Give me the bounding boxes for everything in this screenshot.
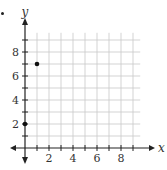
x-axis-arrow-right-icon: [149, 145, 155, 151]
x-axis-label: x: [158, 141, 165, 155]
y-tick-label: 8: [12, 46, 19, 59]
y-tick-label: 6: [12, 70, 19, 83]
data-point: [23, 122, 28, 127]
x-tick-label: 4: [70, 152, 77, 165]
y-axis-label: y: [21, 5, 29, 19]
y-tick-label: 2: [12, 118, 19, 131]
data-point: [35, 62, 40, 67]
x-tick-label: 2: [46, 152, 53, 165]
y-tick-label: 4: [12, 94, 19, 107]
x-axis-arrow-left-icon: [10, 145, 16, 151]
y-axis-arrow-up-icon: [22, 18, 28, 25]
y-axis-arrow-down-icon: [22, 157, 28, 164]
x-tick-label: 6: [94, 152, 101, 165]
x-tick-label: 8: [118, 152, 125, 165]
coordinate-plane: 24682468xy: [0, 0, 167, 170]
